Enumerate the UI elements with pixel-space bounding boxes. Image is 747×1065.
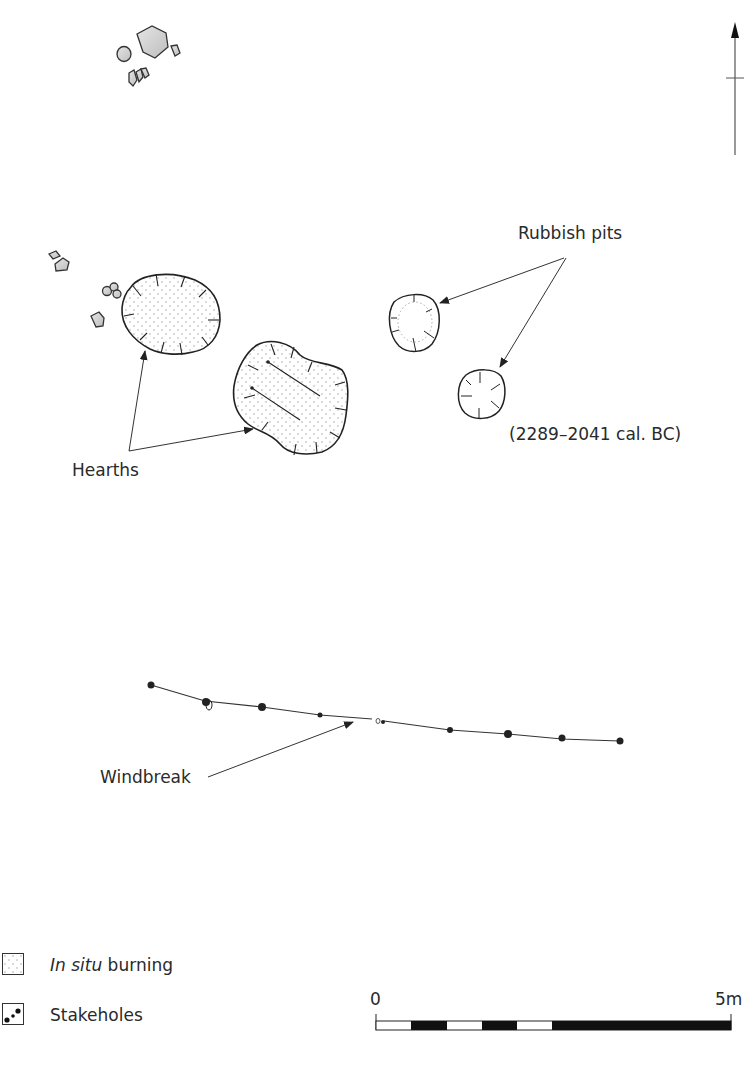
windbreak [148, 682, 624, 745]
hearth-2 [234, 342, 348, 455]
stone-cluster-west [49, 251, 121, 327]
windbreak-label: Windbreak [100, 769, 191, 786]
legend-in-situ-burning: In situ burning [50, 957, 173, 974]
site-plan [0, 0, 747, 1065]
hearth-1 [122, 274, 220, 355]
scale-start-label: 0 [370, 991, 381, 1008]
rubbish-pits-arrows [440, 258, 566, 367]
hearths-label: Hearths [72, 462, 139, 479]
stipple-icon [3, 954, 23, 974]
rubbish-pit-1 [389, 295, 439, 352]
scale-end-label: 5m [715, 991, 742, 1008]
stakeholes-icon [3, 1004, 23, 1024]
windbreak-arrow [208, 722, 353, 777]
legend-burning-text: burning [102, 955, 173, 975]
in-situ-burning-swatch [2, 953, 24, 975]
scale-bar [376, 1014, 731, 1030]
stakeholes-swatch [2, 1003, 24, 1025]
stone-cluster-north [117, 26, 180, 86]
rubbish-pits-label: Rubbish pits [518, 225, 622, 242]
legend-in-situ-italic: In situ [50, 955, 102, 975]
north-arrow-icon [726, 22, 744, 155]
legend-stakeholes: Stakeholes [50, 1007, 143, 1024]
date-range-label: (2289–2041 cal. BC) [509, 426, 681, 443]
rubbish-pit-2 [458, 370, 505, 419]
